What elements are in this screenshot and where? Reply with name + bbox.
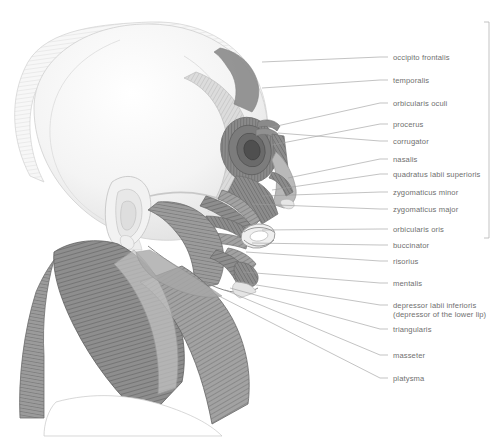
muscle-label-quadratus-labii-superioris[interactable]: quadratus labii superioris [393,170,481,179]
muscle-label-text: nasalis [393,155,417,164]
muscle-label-text: temporalis [393,76,429,85]
muscle-label-text: platysma [393,374,424,383]
leader-line-procerus [272,124,388,145]
muscle-label-text: masseter [393,351,425,360]
muscle-label-corrugator[interactable]: corrugator [393,137,429,146]
muscle-label-text: occipito frontalis [393,53,450,62]
muscle-label-orbicularis-oculi[interactable]: orbicularis oculi [393,99,447,108]
muscle-label-triangularis[interactable]: triangularis [393,325,432,334]
muscle-label-orbicularis-oris[interactable]: orbicularis oris [393,225,444,234]
muscle-label-risorius[interactable]: risorius [393,257,418,266]
muscle-label-nasalis[interactable]: nasalis [393,155,417,164]
supraclavicular-fossa [44,396,222,436]
leader-line-mentalis [243,272,388,283]
muscle-label-buccinator[interactable]: buccinator [393,241,429,250]
muscle-label-depressor-labii-inferioris[interactable]: depressor labii inferioris(depressor of … [393,301,486,320]
facial-muscles-illustration [0,0,502,438]
muscle-label-text: orbicularis oris [393,225,444,234]
muscle-label-text: depressor labii inferioris [393,301,476,310]
leader-line-temporalis [262,80,388,88]
leader-line-buccinator [252,243,388,245]
muscle-label-text: corrugator [393,137,429,146]
leader-line-masseter [225,290,388,355]
trapezius-edge [20,260,54,418]
muscle-label-text: orbicularis oculi [393,99,447,108]
leader-line-orbicularis-oculi [268,103,388,128]
muscle-label-masseter[interactable]: masseter [393,351,425,360]
muscle-label-platysma[interactable]: platysma [393,374,424,383]
right-bracket [484,22,489,238]
muscle-label-text: zygomaticus major [393,205,458,214]
leader-line-occipito-frontalis [262,57,388,62]
muscle-label-zygomaticus-minor[interactable]: zygomaticus minor [393,188,458,197]
muscle-label-text: mentalis [393,279,422,288]
leader-line-depressor-labii-inferioris [238,282,388,305]
muscle-label-text: buccinator [393,241,429,250]
muscle-label-procerus[interactable]: procerus [393,120,424,129]
muscle-label-text: zygomaticus minor [393,188,458,197]
muscle-label-text: risorius [393,257,418,266]
leader-line-triangularis [230,288,388,329]
muscle-label-zygomaticus-major[interactable]: zygomaticus major [393,205,458,214]
muscle-label-text: procerus [393,120,424,129]
anatomy-figure-page: occipito frontalistemporalisorbicularis … [0,0,502,438]
muscle-label-occipito-frontalis[interactable]: occipito frontalis [393,53,450,62]
muscle-label-text: triangularis [393,325,432,334]
muscle-label-mentalis[interactable]: mentalis [393,279,422,288]
muscle-label-subtext: (depressor of the lower lip) [393,310,486,319]
leader-line-orbicularis-oris [262,229,388,230]
leader-line-corrugator [278,133,388,141]
muscle-label-text: quadratus labii superioris [393,170,481,179]
muscle-label-temporalis[interactable]: temporalis [393,76,429,85]
leader-line-risorius [246,252,388,261]
